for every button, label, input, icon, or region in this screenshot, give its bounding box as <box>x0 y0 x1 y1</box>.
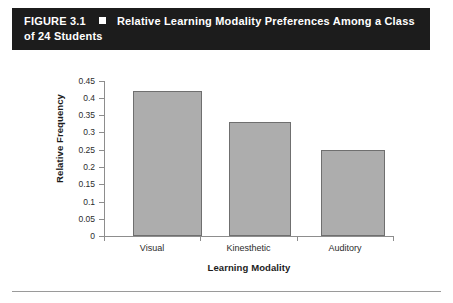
x-axis-label-kinesthetic: Kinesthetic <box>200 243 297 253</box>
y-tick-mark <box>99 132 104 133</box>
y-tick-label: 0.3 <box>83 128 95 137</box>
y-tick-mark <box>99 219 104 220</box>
figure-header-line-1: FIGURE 3.1Relative Learning Modality Pre… <box>24 14 420 29</box>
bar-auditory <box>321 150 385 236</box>
x-axis-label-auditory: Auditory <box>297 243 393 253</box>
x-axis-line <box>104 236 394 237</box>
bar-chart: 0.45 0.4 0.35 0.3 0.25 0.2 0.15 0.1 0.05… <box>0 55 453 285</box>
bottom-divider-rule <box>12 291 441 292</box>
x-tick-mark <box>297 236 298 241</box>
figure-square-marker-icon <box>99 17 106 24</box>
x-tick-mark <box>104 236 105 241</box>
y-tick-mark <box>99 150 104 151</box>
bar-visual <box>133 91 202 236</box>
y-axis-title: Relative Frequency <box>54 74 65 204</box>
y-tick-mark <box>99 167 104 168</box>
y-axis-line <box>104 81 105 237</box>
x-tick-mark <box>393 236 394 241</box>
figure-title-line-2: of 24 Students <box>24 29 420 44</box>
y-tick-mark <box>99 115 104 116</box>
figure-title-line-1: Relative Learning Modality Preferences A… <box>117 15 415 27</box>
x-axis-title: Learning Modality <box>104 262 394 273</box>
y-tick-label: 0.25 <box>78 146 95 155</box>
x-axis-label-visual: Visual <box>104 243 200 253</box>
y-tick-label: 0.35 <box>78 111 95 120</box>
figure-header-band: FIGURE 3.1Relative Learning Modality Pre… <box>12 8 430 50</box>
y-tick-label: 0.45 <box>78 77 95 86</box>
y-tick-label: 0.2 <box>83 163 95 172</box>
x-tick-mark <box>200 236 201 241</box>
figure-number-label: FIGURE 3.1 <box>24 15 86 27</box>
y-tick-mark <box>99 202 104 203</box>
y-tick-label: 0.05 <box>78 215 95 224</box>
y-tick-label: 0.1 <box>83 198 95 207</box>
y-tick-label: 0.4 <box>83 94 95 103</box>
y-tick-mark <box>99 98 104 99</box>
y-tick-label: 0.15 <box>78 180 95 189</box>
y-tick-mark <box>99 184 104 185</box>
y-tick-mark <box>99 81 104 82</box>
y-tick-label: 0 <box>90 232 95 241</box>
bar-kinesthetic <box>229 122 291 236</box>
